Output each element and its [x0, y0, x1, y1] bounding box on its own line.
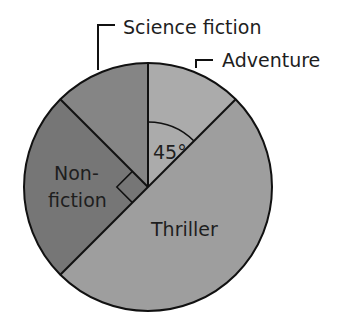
label-non-fiction-2: fiction — [48, 189, 107, 211]
leader-adventure — [196, 60, 213, 68]
label-thriller: Thriller — [150, 218, 218, 240]
leader-science-fiction — [98, 25, 115, 70]
label-science-fiction: Science fiction — [123, 16, 262, 38]
angle-label-45: 45° — [153, 141, 187, 163]
label-non-fiction-1: Non- — [54, 162, 99, 184]
label-adventure: Adventure — [222, 49, 320, 71]
pie-chart: 45° Science fiction Adventure Non- ficti… — [0, 0, 359, 332]
